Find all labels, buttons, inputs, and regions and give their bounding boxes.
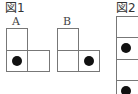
figure1-title: 図1 [5, 1, 25, 15]
shape-a-label: A [12, 16, 20, 28]
shape-b-cell-top [57, 28, 79, 51]
shape-b-cell-bottom-left [57, 50, 79, 72]
figure2-cell-2 [116, 37, 138, 60]
dot-icon [12, 56, 22, 66]
figure2-cell-1 [116, 16, 138, 38]
shape-a-cell-bottom-right [27, 50, 50, 72]
shape-a-cell-top [6, 28, 28, 51]
figure2-cell-3 [116, 59, 138, 81]
figure2-cell-4 [116, 80, 138, 94]
dot-icon [84, 56, 94, 66]
shape-a-cell-bottom-left [6, 50, 28, 72]
shape-b-cell-bottom-right [78, 50, 100, 72]
shape-b-label: B [63, 16, 71, 28]
dot-icon [121, 86, 131, 94]
dot-icon [121, 43, 131, 53]
figure2-title: 図2 [116, 1, 136, 15]
